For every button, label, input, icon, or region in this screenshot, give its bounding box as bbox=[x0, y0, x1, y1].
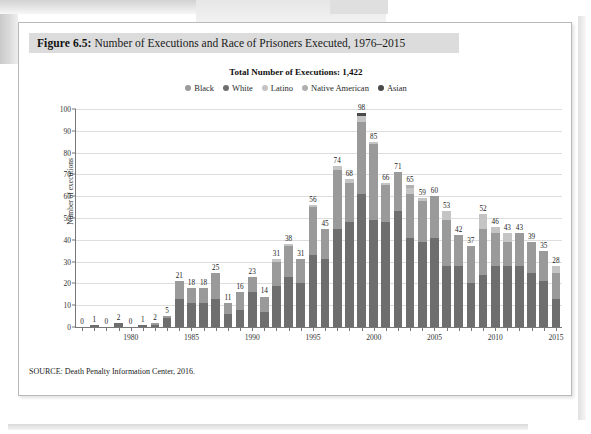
bar-segment-white bbox=[357, 194, 366, 327]
bar-segment-black bbox=[381, 185, 390, 222]
y-axis-tick-label: 90 bbox=[64, 126, 72, 135]
bar-1982[interactable]: 2 bbox=[151, 323, 160, 327]
x-axis-tick-label: 2015 bbox=[548, 333, 563, 342]
bar-2007[interactable]: 42 bbox=[454, 235, 463, 327]
bar-segment-white bbox=[284, 277, 293, 327]
bar-1995[interactable]: 56 bbox=[309, 205, 318, 327]
y-axis-tick-label: 50 bbox=[64, 214, 72, 223]
y-axis-tick bbox=[72, 305, 76, 306]
bar-value-label: 28 bbox=[552, 257, 559, 265]
y-axis-tick bbox=[72, 283, 76, 284]
x-axis-tick bbox=[119, 327, 120, 331]
bar-value-label: 46 bbox=[492, 218, 499, 226]
scan-edge-right bbox=[578, 16, 586, 420]
bar-segment-black bbox=[539, 251, 548, 282]
bar-value-label: 85 bbox=[370, 133, 377, 141]
y-axis-tick-label: 20 bbox=[64, 279, 72, 288]
y-axis-tick bbox=[72, 109, 76, 110]
x-axis-tick-label: 1980 bbox=[123, 333, 138, 342]
x-axis-tick bbox=[349, 327, 350, 331]
bar-2003[interactable]: 65 bbox=[406, 185, 415, 327]
bar-value-label: 18 bbox=[200, 279, 207, 287]
bar-1981[interactable]: 1 bbox=[138, 325, 147, 327]
bar-1996[interactable]: 45 bbox=[321, 229, 330, 327]
y-axis-tick bbox=[72, 196, 76, 197]
legend-label: White bbox=[232, 83, 253, 93]
bar-segment-white bbox=[369, 220, 378, 327]
bar-2015[interactable]: 28 bbox=[552, 266, 561, 327]
bar-1983[interactable]: 5 bbox=[163, 316, 172, 327]
x-axis-tick-label: 2010 bbox=[488, 333, 503, 342]
bar-segment-latino bbox=[503, 233, 512, 242]
bar-segment-black bbox=[321, 229, 330, 260]
bar-1979[interactable]: 2 bbox=[114, 323, 123, 327]
bar-2001[interactable]: 66 bbox=[381, 183, 390, 327]
bar-segment-black bbox=[284, 246, 293, 277]
bar-2012[interactable]: 43 bbox=[515, 233, 524, 327]
bar-1987[interactable]: 25 bbox=[211, 273, 220, 328]
bar-segment-black bbox=[260, 297, 269, 312]
figure-caption-text: Number of Executions and Race of Prisone… bbox=[95, 37, 406, 49]
bar-1992[interactable]: 31 bbox=[272, 259, 281, 327]
bar-1993[interactable]: 38 bbox=[284, 244, 293, 327]
bar-1985[interactable]: 18 bbox=[187, 288, 196, 327]
bar-segment-black bbox=[467, 246, 476, 283]
bar-value-label: 31 bbox=[297, 250, 304, 258]
bar-segment-black bbox=[187, 288, 196, 303]
legend-label: Latino bbox=[271, 83, 293, 93]
figure-caption: Figure 6.5: Number of Executions and Rac… bbox=[29, 33, 459, 53]
bar-value-label: 43 bbox=[516, 224, 523, 232]
y-axis-tick-label: 0 bbox=[67, 323, 71, 332]
bar-1997[interactable]: 74 bbox=[333, 166, 342, 327]
bar-2004[interactable]: 59 bbox=[418, 198, 427, 327]
bar-2005[interactable]: 60 bbox=[430, 196, 439, 327]
bar-1994[interactable]: 31 bbox=[296, 259, 305, 327]
bar-value-label: 0 bbox=[80, 318, 84, 326]
legend-label: Asian bbox=[387, 83, 407, 93]
legend-swatch-icon bbox=[185, 85, 191, 91]
bar-2011[interactable]: 43 bbox=[503, 233, 512, 327]
bar-2006[interactable]: 53 bbox=[442, 211, 451, 327]
bar-segment-black bbox=[345, 183, 354, 222]
bar-2008[interactable]: 37 bbox=[467, 246, 476, 327]
bar-value-label: 52 bbox=[479, 205, 486, 213]
bar-segment-latino bbox=[442, 211, 451, 220]
bar-value-label: 2 bbox=[153, 314, 157, 322]
bar-1998[interactable]: 68 bbox=[345, 179, 354, 327]
bar-segment-white bbox=[430, 238, 439, 327]
scan-strip-top-secondary bbox=[330, 0, 388, 14]
gridline bbox=[76, 109, 562, 110]
x-axis-tick bbox=[532, 327, 533, 331]
bar-1984[interactable]: 21 bbox=[175, 281, 184, 327]
bar-segment-black bbox=[454, 235, 463, 266]
bar-2000[interactable]: 85 bbox=[369, 142, 378, 327]
bar-value-label: 14 bbox=[261, 287, 268, 295]
legend-item-black: Black bbox=[185, 83, 214, 93]
bar-1989[interactable]: 16 bbox=[236, 292, 245, 327]
bar-2013[interactable]: 39 bbox=[527, 242, 536, 327]
bar-segment-black bbox=[369, 144, 378, 220]
bar-2010[interactable]: 46 bbox=[491, 227, 500, 327]
bar-1990[interactable]: 23 bbox=[248, 277, 257, 327]
x-axis-tick bbox=[167, 327, 168, 331]
bar-1986[interactable]: 18 bbox=[199, 288, 208, 327]
bar-segment-white bbox=[406, 238, 415, 327]
gridline bbox=[76, 131, 562, 132]
bar-1991[interactable]: 14 bbox=[260, 296, 269, 327]
x-axis-tick bbox=[289, 327, 290, 331]
bar-value-label: 98 bbox=[358, 104, 365, 112]
bar-2009[interactable]: 52 bbox=[479, 214, 488, 327]
bar-segment-white bbox=[151, 325, 160, 327]
bar-segment-white bbox=[479, 275, 488, 327]
bar-1999[interactable]: 98 bbox=[357, 113, 366, 327]
bar-2014[interactable]: 35 bbox=[539, 251, 548, 327]
bar-2002[interactable]: 71 bbox=[394, 172, 403, 327]
x-axis-tick bbox=[447, 327, 448, 331]
bar-segment-white bbox=[467, 283, 476, 327]
bar-1977[interactable]: 1 bbox=[90, 325, 99, 327]
bar-1988[interactable]: 11 bbox=[224, 303, 233, 327]
bar-segment-black bbox=[236, 292, 245, 309]
x-axis-tick bbox=[143, 327, 144, 331]
bar-segment-black bbox=[333, 170, 342, 229]
x-axis-tick-label: 1985 bbox=[184, 333, 199, 342]
